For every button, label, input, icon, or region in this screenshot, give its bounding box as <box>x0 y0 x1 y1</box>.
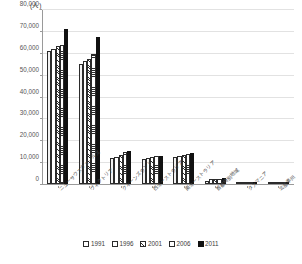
y-axis-tick-label: 60,000 <box>20 43 39 50</box>
chart-legend: 19911996200120062011 <box>0 240 302 247</box>
bar-group <box>168 10 200 184</box>
y-axis-tick-label: 50,000 <box>20 65 39 72</box>
x-axis-label-cell: ニューサウスウェールズ <box>42 186 74 238</box>
legend-swatch-icon <box>198 241 204 247</box>
y-axis-tick-label: 10,000 <box>20 153 39 160</box>
x-axis-label-cell: 西オーストラリア <box>137 186 169 238</box>
y-axis-tick-label: 30,000 <box>20 109 39 116</box>
bar-group <box>105 10 137 184</box>
y-axis-tick-label: 70,000 <box>20 21 39 28</box>
legend-item-2001[interactable]: 2001 <box>140 240 162 247</box>
x-axis-labels: ニューサウスウェールズヴィクトリアクイーンズランド西オーストラリア南オーストラリ… <box>42 186 294 238</box>
legend-swatch-icon <box>140 241 146 247</box>
legend-label: 1996 <box>119 240 133 247</box>
legend-label: 2006 <box>176 240 190 247</box>
legend-swatch-icon <box>83 241 89 247</box>
bar-2011 <box>96 37 100 184</box>
x-axis-label-cell: 北部準州 <box>263 186 295 238</box>
bar-groups <box>42 10 294 184</box>
legend-label: 2001 <box>148 240 162 247</box>
bar-group <box>137 10 169 184</box>
plot-area: 010,00020,00030,00040,00050,00060,00070,… <box>42 10 294 185</box>
x-axis-label-cell: タスマニア <box>231 186 263 238</box>
legend-item-1996[interactable]: 1996 <box>112 240 134 247</box>
bar-group <box>231 10 263 184</box>
bar-group <box>42 10 74 184</box>
bar-group <box>263 10 295 184</box>
y-axis-tick-label: 20,000 <box>20 131 39 138</box>
x-axis-label-cell: 首都特別地域 <box>200 186 232 238</box>
bar-2011 <box>64 29 68 184</box>
x-axis-label-cell: 南オーストラリア <box>168 186 200 238</box>
legend-item-2006[interactable]: 2006 <box>169 240 191 247</box>
bar-group <box>200 10 232 184</box>
legend-item-2011[interactable]: 2011 <box>198 240 219 247</box>
legend-swatch-icon <box>169 241 175 247</box>
legend-label: 1991 <box>91 240 105 247</box>
y-axis-tick-label: 0 <box>35 175 39 182</box>
bar-chart: (人) 010,00020,00030,00040,00050,00060,00… <box>0 0 302 264</box>
y-axis-tick-label: 80,000 <box>20 0 39 7</box>
x-axis-label-cell: クイーンズランド <box>105 186 137 238</box>
legend-swatch-icon <box>112 241 118 247</box>
legend-item-1991[interactable]: 1991 <box>83 240 105 247</box>
y-axis-tick-label: 40,000 <box>20 87 39 94</box>
x-axis-label-cell: ヴィクトリア <box>74 186 106 238</box>
legend-label: 2011 <box>205 240 219 247</box>
